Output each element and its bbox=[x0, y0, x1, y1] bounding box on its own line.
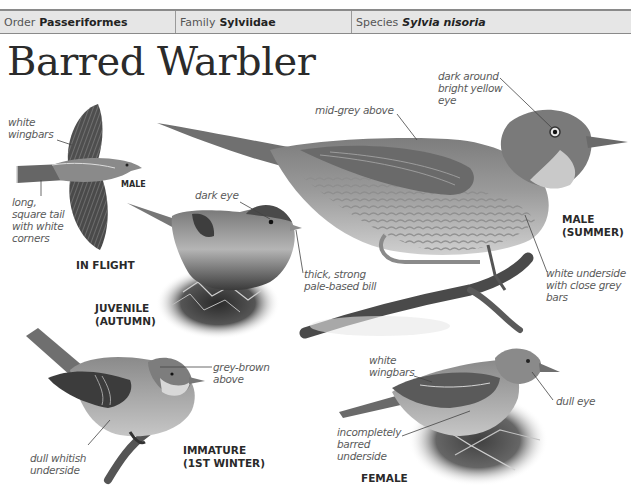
caption-immature: IMMATURE (1ST WINTER) bbox=[183, 444, 265, 470]
in-flight-sex-tag: MALE bbox=[121, 178, 146, 191]
caption-in-flight: IN FLIGHT bbox=[76, 259, 135, 272]
note-male-underside: white underside with close grey bars bbox=[546, 267, 626, 303]
leader-juvenile-bill bbox=[296, 230, 303, 273]
illustration-canvas bbox=[0, 0, 631, 495]
note-male-upperparts: mid-grey above bbox=[315, 104, 394, 116]
note-female-underside: incompletely barred underside bbox=[337, 426, 401, 462]
note-female-wingbars: white wingbars bbox=[369, 354, 414, 378]
note-immature-underside: dull whitish underside bbox=[30, 452, 86, 476]
note-male-eye: dark around bright yellow eye bbox=[438, 70, 502, 106]
caption-juvenile: JUVENILE (AUTUMN) bbox=[95, 302, 156, 328]
caption-male-summer: MALE (SUMMER) bbox=[562, 213, 624, 239]
note-juvenile-bill: thick, strong pale-based bill bbox=[304, 268, 376, 292]
note-in-flight-tail: long, square tail with white corners bbox=[12, 196, 64, 244]
note-immature-upperparts: grey-brown above bbox=[213, 361, 270, 385]
caption-female: FEMALE bbox=[361, 472, 408, 485]
note-female-eye: dull eye bbox=[556, 395, 595, 407]
leader-male-upperparts bbox=[397, 114, 417, 140]
leader-female-eye bbox=[532, 372, 553, 400]
note-juvenile-eye: dark eye bbox=[195, 189, 239, 201]
note-in-flight-wingbars: white wingbars bbox=[8, 116, 53, 140]
